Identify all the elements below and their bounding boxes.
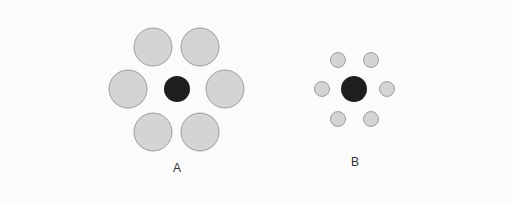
group-b: B (315, 53, 395, 170)
group-a: A (109, 28, 244, 175)
outer-circle (206, 70, 244, 108)
outer-circle (134, 28, 172, 66)
outer-circle (315, 82, 330, 97)
ebbinghaus-illusion-figure: AB (0, 0, 513, 202)
figure-canvas: AB (0, 0, 513, 202)
outer-circle (181, 28, 219, 66)
outer-circle (181, 113, 219, 151)
outer-circle (331, 53, 346, 68)
outer-circle (109, 70, 147, 108)
outer-circle (364, 53, 379, 68)
group-label: B (351, 155, 359, 169)
outer-circle (364, 112, 379, 127)
outer-circle (380, 82, 395, 97)
center-circle (164, 76, 190, 102)
group-label: A (173, 161, 181, 175)
center-circle (341, 76, 367, 102)
outer-circle (134, 113, 172, 151)
outer-circle (331, 112, 346, 127)
